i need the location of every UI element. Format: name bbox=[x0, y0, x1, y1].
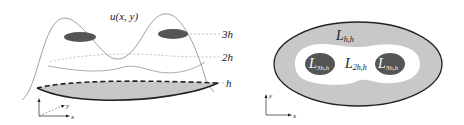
surface-label: u(x, y) bbox=[110, 10, 138, 23]
figure: u(x, y) 3h 2h h y x Lh,h L2h,h bbox=[0, 0, 464, 125]
level-2h-contour bbox=[48, 62, 205, 73]
level-set-panel: Lh,h L2h,h L3h,h L3h,h y x bbox=[265, 22, 443, 120]
level-3h-region-left bbox=[64, 32, 96, 42]
axis-x-label: x bbox=[70, 113, 75, 121]
axes-icon-right: y x bbox=[265, 92, 298, 120]
level-h-label: h bbox=[226, 77, 232, 89]
axis-y-label: y bbox=[65, 102, 70, 110]
axes-icon: y x bbox=[38, 98, 76, 121]
level-3h-label: 3h bbox=[221, 28, 234, 40]
axis-x-label-right: x bbox=[292, 112, 297, 120]
level-3h-region-right bbox=[158, 29, 188, 39]
level-2h-line bbox=[50, 54, 222, 62]
level-2h-label: 2h bbox=[222, 51, 234, 63]
axis-y-label-right: y bbox=[268, 92, 273, 100]
surface-plot-panel: u(x, y) 3h 2h h y x bbox=[22, 10, 234, 121]
